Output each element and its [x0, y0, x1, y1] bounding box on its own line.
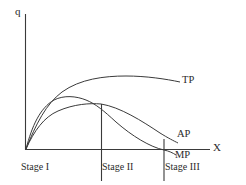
production-stages-figure: q X TP AP MP Stage I Stage II Stage III [0, 0, 246, 185]
figure-canvas [0, 0, 246, 185]
ap-curve-label: AP [177, 129, 190, 140]
x-axis-label: X [213, 142, 221, 153]
stage-3-label: Stage III [165, 162, 200, 172]
y-axis-label: q [15, 6, 21, 17]
tp-curve [26, 76, 180, 149]
stage-2-label: Stage II [102, 162, 133, 172]
mp-curve-label: MP [175, 150, 190, 161]
stage-1-label: Stage I [21, 162, 49, 172]
tp-curve-label: TP [182, 75, 194, 86]
